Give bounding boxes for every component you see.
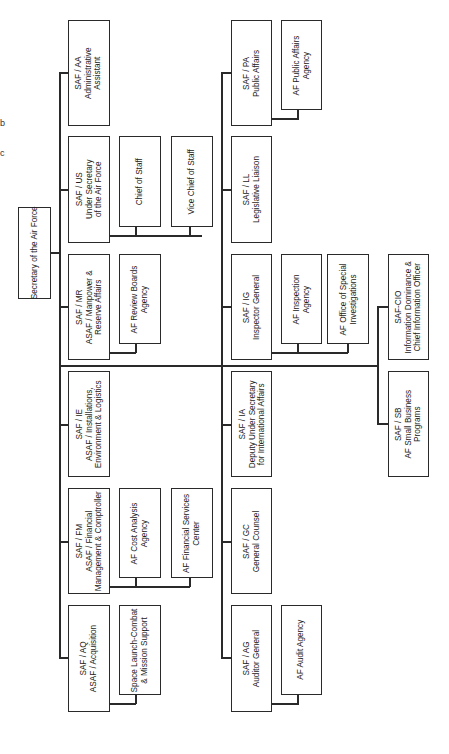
cross-bus [59, 365, 222, 367]
node-chief-of-staff: Chief of Staff [119, 136, 161, 227]
node-af-inspection-agency: AF InspectionAgency [281, 254, 322, 344]
node-af-audit-agency: AF Audit Agency [281, 605, 322, 695]
node-label: for International Affairs [256, 380, 266, 468]
node-saf-pa: SAF / PAPublic Affairs [231, 20, 272, 126]
node-label: SAF-CIO [394, 261, 404, 353]
connector [221, 306, 231, 308]
node-label: SAF / GC [242, 510, 252, 571]
node-secretary: Secretary of the Air Force [18, 207, 51, 299]
node-saf-gc: SAF / GCGeneral Counsel [231, 488, 272, 594]
node-label: Agency [140, 265, 150, 333]
connector [271, 118, 299, 120]
node-label: SAF / IA [237, 380, 247, 468]
node-label: SAF / SB [394, 390, 404, 459]
node-label: SAF / US [75, 160, 85, 220]
connector [59, 657, 68, 659]
node-saf-sb: SAF / SBAF Small BusinessPrograms [388, 371, 429, 477]
node-af-review-boards-agency: AF Review BoardsAgency [119, 254, 161, 344]
node-label: AF Small Business [404, 390, 414, 459]
chart-title-fragment: b [0, 118, 5, 128]
node-label: Investigations [348, 263, 358, 335]
node-saf-ll: SAF / LLLegislative Liaison [231, 136, 272, 243]
cio-branch [221, 365, 379, 367]
node-label: SAF / AQ [80, 625, 90, 692]
node-label: Information Dominance & [404, 261, 414, 353]
node-label: SAF / PA [242, 49, 252, 96]
node-label: Auditor General [252, 630, 262, 687]
node-saf-ag: SAF / AGAuditor General [231, 605, 272, 712]
connector [135, 695, 137, 704]
node-saf-ia: SAF / IADeputy Under Secretaryfor Intern… [231, 371, 272, 477]
node-label: Vice Chief of Staff [187, 149, 197, 214]
connector [189, 227, 191, 236]
node-label: ASAF / Installations, [84, 380, 94, 468]
node-label: Programs [413, 390, 423, 459]
node-af-public-affairs-agency: AF Public AffairsAgency [281, 20, 322, 110]
connector [135, 578, 137, 587]
node-label: Agency [302, 274, 312, 324]
node-label: Legislative Liaison [252, 156, 262, 223]
node-label: Assistant [94, 47, 104, 98]
node-label: & Mission Support [140, 608, 150, 692]
connector [377, 423, 388, 425]
node-af-financial-services-center: AF Financial ServicesCenter [171, 488, 213, 578]
node-saf-ig: SAF / IGInspector General [231, 254, 272, 360]
connector [271, 703, 299, 705]
connector [109, 352, 136, 354]
connector [59, 424, 68, 426]
node-label: Public Affairs [252, 49, 262, 96]
connector [297, 344, 299, 353]
node-label: Chief of Staff [135, 158, 145, 205]
node-label: AF Inspection [292, 274, 302, 324]
cio-bus [377, 306, 379, 424]
node-saf-us: SAF / USUnder Secretaryof the Air Force [68, 136, 110, 243]
node-label: Inspector General [252, 274, 262, 339]
node-label: Reserve Affairs [94, 270, 104, 344]
node-label: Management & Comptroller [94, 491, 104, 591]
connector [59, 306, 68, 308]
connector [271, 352, 348, 354]
node-label: ASAF / Acquisition [89, 625, 99, 692]
connector [221, 657, 231, 659]
node-space-launch-combat: Space Launch-Combat& Mission Support [119, 605, 161, 695]
node-label: AF Cost Analysis [131, 502, 141, 564]
node-label: Administrative [84, 47, 94, 98]
connector [377, 306, 388, 308]
node-af-office-special-investigations: AF Office of SpecialInvestigations [327, 254, 369, 344]
node-label: ASAF / Manpower & [84, 270, 94, 344]
node-label: SAF / LL [242, 156, 252, 223]
node-label: of the Air Force [94, 160, 104, 220]
node-label: AF Audit Agency [297, 620, 307, 680]
node-label: SAF / AG [242, 630, 252, 687]
connector [221, 424, 231, 426]
connector [221, 189, 231, 191]
node-label: Deputy Under Secretary [247, 380, 257, 468]
node-label: ASAF / Financial [84, 491, 94, 591]
node-label: SAF / IG [242, 274, 252, 339]
node-label: AF Financial Services [183, 493, 193, 572]
connector [109, 703, 136, 705]
node-label: AF Review Boards [131, 265, 141, 333]
node-label: Environment & Logistics [94, 380, 104, 468]
node-label: Under Secretary [84, 160, 94, 220]
connector [297, 110, 299, 119]
connector [189, 578, 191, 587]
node-label: SAF / FM [75, 491, 85, 591]
node-label: Secretary of the Air Force [30, 207, 40, 300]
connector [59, 72, 68, 74]
connector [347, 344, 349, 353]
node-saf-aa: SAF / AAAdministrativeAssistant [68, 20, 110, 126]
node-label: Agency [140, 502, 150, 564]
connector [221, 541, 231, 543]
node-label: Chief Information Officer [413, 261, 423, 353]
node-label: Agency [302, 35, 312, 95]
node-saf-ie: SAF / IEASAF / Installations,Environment… [68, 371, 110, 477]
node-af-cost-analysis-agency: AF Cost AnalysisAgency [119, 488, 161, 578]
connector [59, 189, 68, 191]
connector [135, 227, 137, 236]
connector [59, 541, 68, 543]
node-saf-cio: SAF-CIOInformation Dominance &Chief Info… [388, 254, 429, 360]
node-label: General Counsel [252, 510, 262, 571]
connector [135, 344, 137, 353]
node-saf-fm: SAF / FMASAF / FinancialManagement & Com… [68, 488, 110, 594]
